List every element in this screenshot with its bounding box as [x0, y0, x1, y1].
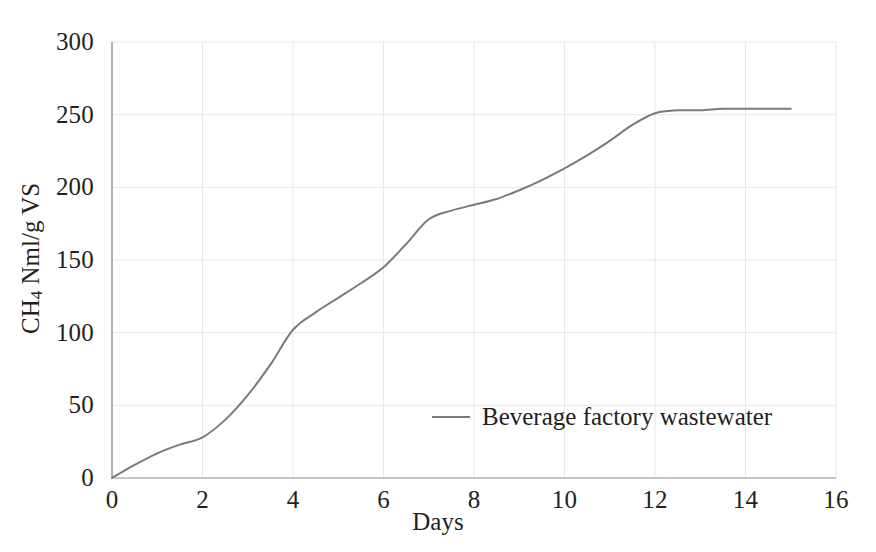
- chart-legend: Beverage factory wastewater: [432, 403, 772, 431]
- y-tick-label: 300: [0, 28, 94, 56]
- y-tick-label: 0: [0, 464, 94, 492]
- y-axis-title: CH4 Nml/g VS: [17, 93, 48, 423]
- legend-label: Beverage factory wastewater: [482, 403, 772, 431]
- y-axis-title-subscript: 4: [27, 291, 46, 300]
- plot-canvas: [0, 0, 876, 552]
- y-axis-title-prefix: CH: [17, 299, 44, 334]
- x-axis-title: Days: [0, 508, 876, 536]
- chart-figure: 050100150200250300 0246810121416 Days CH…: [0, 0, 876, 552]
- legend-line-swatch: [432, 416, 470, 418]
- y-axis-title-suffix: Nml/g VS: [17, 183, 44, 291]
